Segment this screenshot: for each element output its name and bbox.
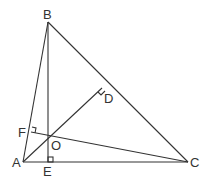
label-c: C [190,156,199,169]
label-b: B [43,8,52,21]
triangle-diagram: B D F O A E C [0,0,212,185]
label-e: E [43,165,52,178]
segment-bc [48,22,188,162]
altitude-ad [23,88,102,162]
label-a: A [12,156,21,169]
label-d: D [104,92,113,105]
segment-ab [23,22,48,162]
right-angle-e [48,157,53,162]
label-o: O [51,139,61,152]
label-f: F [18,126,26,139]
